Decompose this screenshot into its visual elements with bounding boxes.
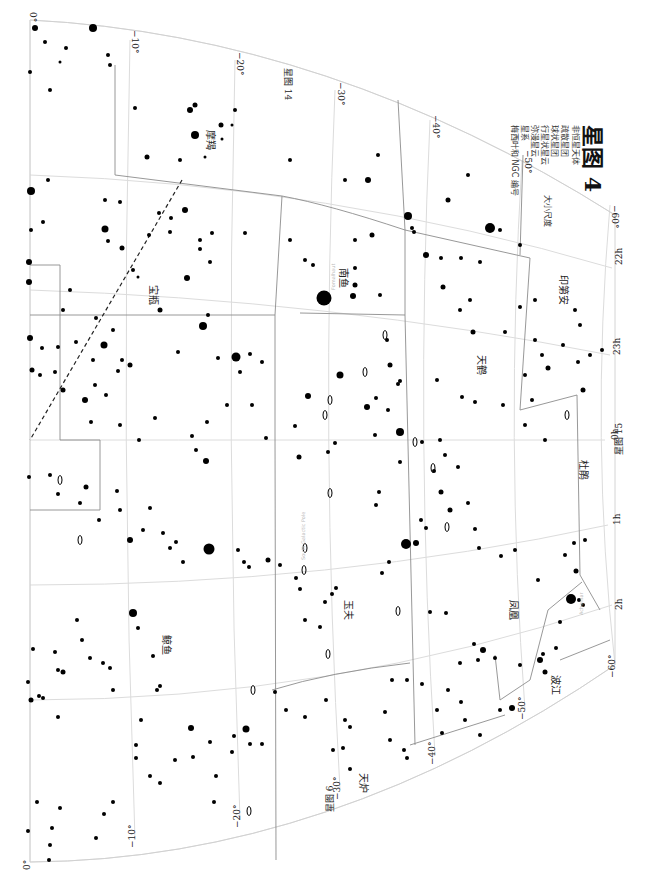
galaxy-symbol <box>78 536 82 545</box>
star <box>260 742 264 746</box>
star <box>468 298 472 302</box>
star <box>40 346 44 350</box>
star <box>439 490 444 495</box>
star <box>97 518 101 522</box>
star <box>101 342 108 349</box>
star <box>503 330 507 334</box>
star <box>460 395 464 399</box>
star <box>353 283 358 288</box>
dec-label-bottom: −20° <box>232 805 242 829</box>
star <box>139 718 143 722</box>
star <box>303 258 307 262</box>
star <box>29 698 34 703</box>
star <box>168 546 172 550</box>
constellation-label: 天炉 <box>358 773 369 793</box>
star <box>104 393 108 397</box>
star <box>402 748 406 752</box>
star <box>378 293 382 297</box>
star <box>509 705 515 711</box>
star <box>554 646 558 650</box>
galaxy-symbol <box>326 650 330 659</box>
star <box>380 571 384 575</box>
dec-label-bottom: −10° <box>127 825 137 849</box>
galaxy-symbol <box>565 411 569 420</box>
star <box>572 541 576 545</box>
star <box>198 247 202 251</box>
star <box>82 397 88 403</box>
star <box>137 276 140 279</box>
star <box>466 173 470 177</box>
star <box>537 657 543 663</box>
star <box>317 291 332 306</box>
star <box>305 393 311 399</box>
galaxies-layer <box>58 331 569 816</box>
star <box>155 688 159 692</box>
star <box>26 279 32 285</box>
star <box>120 246 125 251</box>
star <box>64 46 68 50</box>
star <box>543 670 548 675</box>
star <box>208 260 212 264</box>
star <box>212 800 216 804</box>
star <box>26 259 32 265</box>
constellation-label: 杜鹃 <box>578 460 590 480</box>
star <box>435 378 439 382</box>
star <box>157 211 161 215</box>
star <box>194 448 198 452</box>
star <box>37 694 41 698</box>
star <box>232 734 236 738</box>
galaxy-symbol <box>445 523 449 532</box>
dec-label-bottom: −50° <box>517 697 527 721</box>
star <box>181 560 185 564</box>
star <box>485 223 495 233</box>
star <box>533 338 537 342</box>
star <box>311 263 315 267</box>
star <box>473 527 477 531</box>
star <box>463 718 467 722</box>
star <box>248 742 252 746</box>
star <box>219 123 224 128</box>
star <box>59 61 62 64</box>
star <box>513 548 517 552</box>
star <box>91 358 95 362</box>
star <box>103 198 107 202</box>
star <box>456 465 460 469</box>
dec-label-bottom: −60° <box>607 655 617 679</box>
star <box>383 710 387 714</box>
star <box>578 323 582 327</box>
star <box>118 200 122 204</box>
star <box>493 656 497 660</box>
annotation-label: Fomalhaut <box>330 264 336 290</box>
star <box>458 661 462 665</box>
star <box>396 428 404 436</box>
star <box>413 540 419 546</box>
star <box>353 266 357 270</box>
star <box>343 178 347 182</box>
star <box>38 373 42 377</box>
legend-item-planetary-nebula: 行星状星云 <box>540 125 550 165</box>
star <box>333 441 337 445</box>
star <box>61 308 65 312</box>
star <box>74 340 78 344</box>
star <box>419 518 423 522</box>
star <box>148 774 152 778</box>
star <box>348 725 352 729</box>
star <box>134 743 138 747</box>
star <box>48 88 52 92</box>
star <box>236 548 240 552</box>
star <box>80 638 84 642</box>
star <box>288 158 292 162</box>
legend-item-globular-cluster: 球状星团 <box>550 125 560 157</box>
star <box>273 690 277 694</box>
star <box>158 308 163 313</box>
star <box>151 654 155 658</box>
star <box>188 725 194 731</box>
star <box>523 373 527 377</box>
star <box>129 609 137 617</box>
star <box>190 434 194 438</box>
star <box>331 748 335 752</box>
star <box>600 348 604 352</box>
star <box>193 103 198 108</box>
legend-size-label: 大小尺度 <box>543 195 553 227</box>
star <box>94 316 98 320</box>
